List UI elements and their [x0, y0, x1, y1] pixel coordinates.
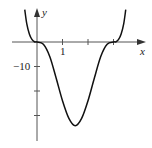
- function-curve: [25, 10, 126, 126]
- y-axis: −10 y: [13, 6, 47, 141]
- y-axis-arrow-icon: [34, 8, 40, 17]
- y-tick-label-neg10: −10: [13, 60, 31, 72]
- x-axis-label: x: [139, 45, 145, 57]
- x-tick-label-1: 1: [60, 45, 66, 57]
- y-axis-label: y: [41, 6, 47, 18]
- x-axis: 1 x: [12, 39, 146, 57]
- function-graph: 1 x −10 y: [0, 0, 152, 148]
